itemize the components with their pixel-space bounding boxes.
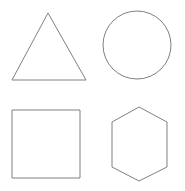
hexagon-shape <box>112 107 167 181</box>
circle-shape <box>103 11 171 79</box>
square-shape <box>12 110 80 178</box>
shapes-figure <box>0 0 185 191</box>
shape-canvas <box>0 0 185 191</box>
triangle-shape <box>12 13 86 80</box>
